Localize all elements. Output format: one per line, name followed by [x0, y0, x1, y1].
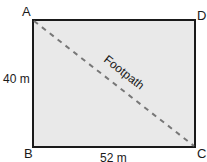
- vertex-label-c: C: [197, 146, 206, 161]
- height-measurement: 40 m: [3, 72, 30, 86]
- vertex-label-d: D: [197, 8, 206, 23]
- vertex-label-a: A: [22, 4, 31, 19]
- vertex-label-b: B: [24, 146, 33, 161]
- width-measurement: 52 m: [100, 151, 127, 162]
- diagram: A D B C 40 m 52 m Footpath: [0, 0, 207, 162]
